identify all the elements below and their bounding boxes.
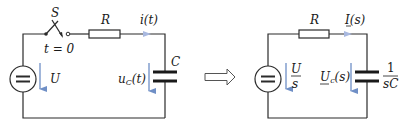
current-arrow-icon: [143, 31, 151, 37]
time-domain-circuit: S t = 0 R i(t) U C uC(t): [10, 6, 180, 118]
source-voltage-numerator: U: [291, 62, 302, 76]
current-label: I(s): [344, 13, 366, 27]
dc-source: [10, 66, 36, 92]
s-domain-circuit: R I(s) U s Uc(s) 1 sC: [255, 13, 398, 118]
left-wire: [23, 34, 46, 66]
switch: [44, 20, 70, 38]
current-label: i(t): [140, 13, 158, 27]
hollow-right-arrow-icon: [205, 69, 235, 85]
resistor: [89, 30, 120, 38]
impedance-numerator: 1: [387, 61, 395, 75]
capacitor-voltage-label: uC(t): [118, 72, 146, 87]
impedance-denominator: sC: [383, 77, 398, 91]
resistor: [299, 30, 329, 38]
right-wire: [120, 34, 165, 72]
capacitor: [355, 72, 379, 81]
bottom-wire: [23, 92, 165, 118]
dc-source: [255, 66, 281, 92]
right-wire: [329, 34, 367, 72]
capacitor-label: C: [171, 55, 180, 69]
resistor-label: R: [309, 13, 319, 27]
capacitor: [153, 72, 177, 81]
source-voltage-fraction: U s: [291, 62, 302, 91]
source-voltage-label: U: [50, 72, 61, 86]
switch-time-label: t = 0: [44, 42, 75, 56]
bottom-wire: [268, 92, 367, 118]
capacitor-voltage-label: Uc(s): [320, 70, 350, 85]
resistor-label: R: [100, 13, 110, 27]
source-voltage-denominator: s: [292, 77, 298, 91]
circuit-diagram: S t = 0 R i(t) U C uC(t): [0, 0, 403, 126]
switch-label: S: [51, 6, 59, 20]
current-arrow-icon: [344, 31, 352, 37]
capacitor-impedance-fraction: 1 sC: [383, 61, 398, 91]
